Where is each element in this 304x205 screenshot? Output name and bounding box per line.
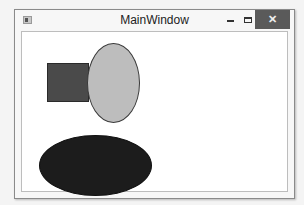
client-area (21, 31, 288, 192)
close-button[interactable]: ✕ (255, 10, 290, 29)
close-icon: ✕ (268, 13, 277, 26)
black-ellipse (39, 135, 152, 196)
title-bar[interactable]: MainWindow ✕ (15, 10, 294, 31)
minimize-icon (227, 20, 234, 22)
dark-rectangle (47, 63, 89, 102)
main-window: MainWindow ✕ (14, 9, 295, 199)
minimize-button[interactable] (221, 10, 239, 29)
maximize-icon (244, 17, 252, 23)
gray-ellipse (87, 43, 140, 123)
